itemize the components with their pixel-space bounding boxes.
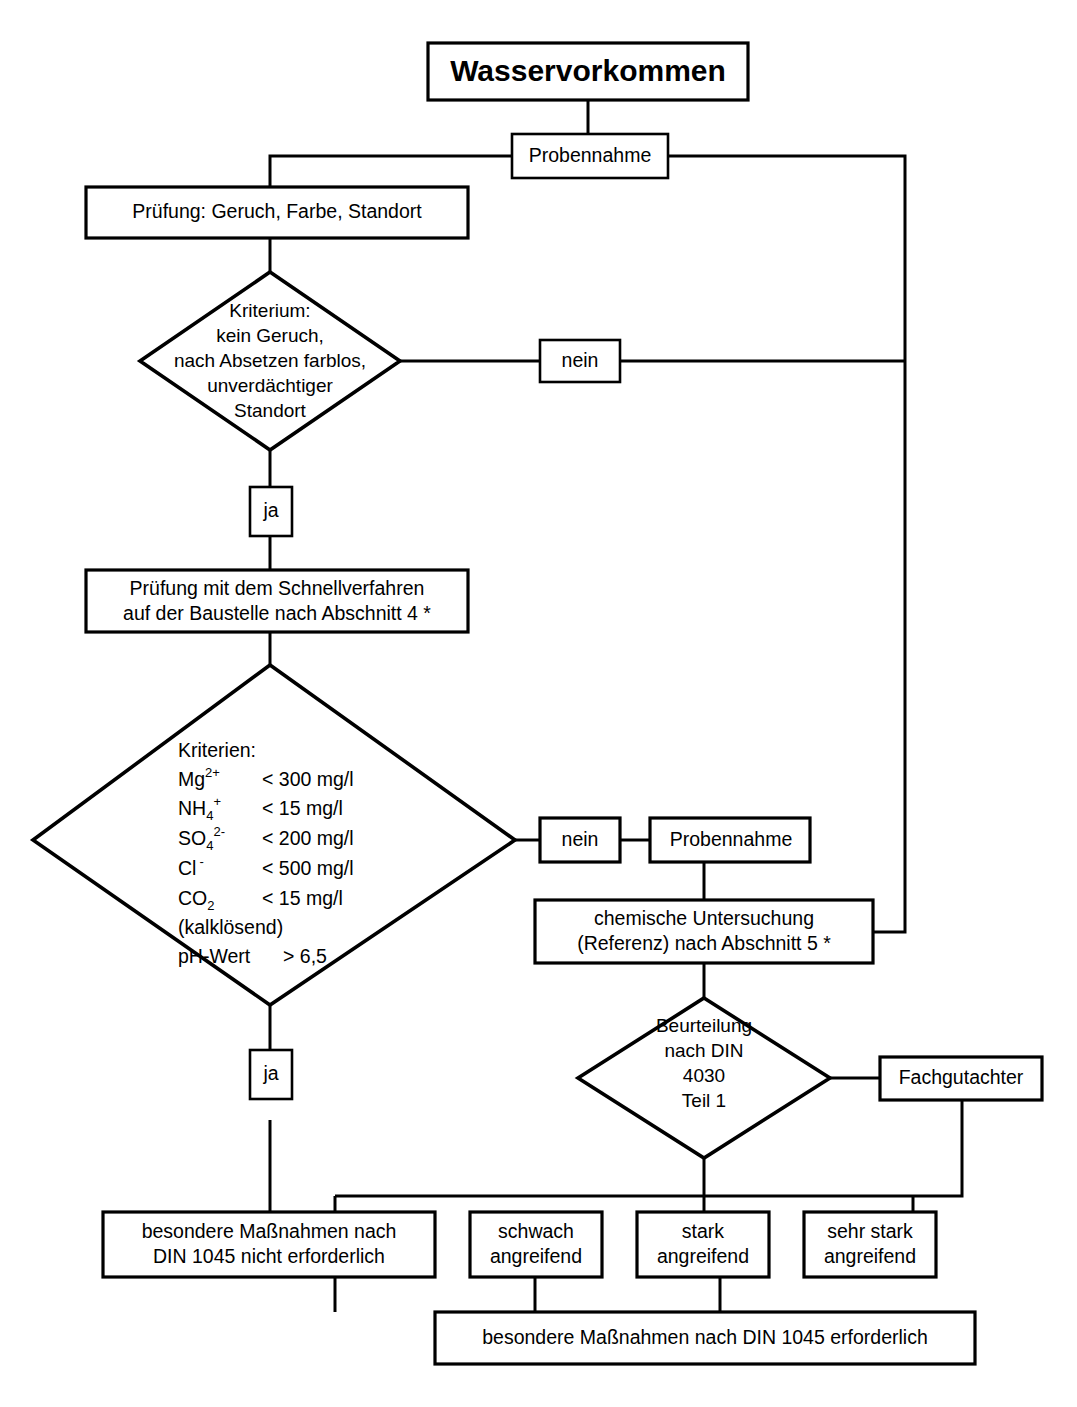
connector-layer	[270, 100, 962, 1312]
kriterien-row-4-limit: < 15 mg/l	[262, 887, 343, 909]
flowchart-canvas: Wasservorkommen Probennahme Prüfung: Ger…	[0, 0, 1077, 1407]
kriterien-row-0-limit: < 300 mg/l	[262, 768, 354, 790]
node-nein-1[interactable]: nein	[540, 340, 620, 382]
kriterien-row-4-species: CO	[178, 887, 207, 909]
node-probennahme-2[interactable]: Probennahme	[650, 818, 810, 862]
node-chemische-untersuchung[interactable]: chemische Untersuchung (Referenz) nach A…	[535, 900, 873, 963]
kriterium-line-0: Kriterium:	[229, 300, 310, 321]
kriterien-row-3-species: Cl	[178, 857, 196, 879]
kriterien-row-1-species: NH	[178, 797, 206, 819]
kriterium-line-3: unverdächtiger	[207, 375, 333, 396]
connector-fachgutachter-to-bar	[913, 1100, 962, 1196]
kriterien-row-2-species: SO	[178, 827, 206, 849]
chemische-untersuchung-line-1: (Referenz) nach Abschnitt 5 *	[577, 932, 831, 954]
title-box-label: Wasservorkommen	[450, 54, 726, 87]
kriterien-row-0-sup: 2+	[205, 765, 220, 780]
kriterien-row-0-species: Mg	[178, 768, 205, 790]
kriterien-row-4-sub: 2	[207, 898, 214, 913]
node-ja-1[interactable]: ja	[250, 487, 292, 536]
kriterien-heading: Kriterien:	[178, 739, 256, 761]
node-result-stark[interactable]: stark angreifend	[637, 1212, 769, 1277]
kriterien-row-2-limit: < 200 mg/l	[262, 827, 354, 849]
node-schnellverfahren[interactable]: Prüfung mit dem Schnellverfahren auf der…	[86, 570, 468, 632]
kriterien-row-1-limit: < 15 mg/l	[262, 797, 343, 819]
flowchart-svg: Wasservorkommen Probennahme Prüfung: Ger…	[0, 0, 1077, 1407]
kriterien-note: (kalklösend)	[178, 916, 283, 938]
probennahme-1-label: Probennahme	[529, 144, 652, 166]
result-measures-required-label: besondere Maßnahmen nach DIN 1045 erford…	[482, 1326, 928, 1348]
node-beurteilung-diamond[interactable]: Beurteilung nach DIN 4030 Teil 1	[578, 998, 830, 1158]
node-ja-2[interactable]: ja	[250, 1050, 292, 1099]
schnellverfahren-line-1: auf der Baustelle nach Abschnitt 4 *	[123, 602, 431, 624]
node-pruefung-visual[interactable]: Prüfung: Geruch, Farbe, Standort	[86, 187, 468, 238]
node-kriterium-diamond[interactable]: Kriterium: kein Geruch, nach Absetzen fa…	[140, 272, 400, 450]
kriterium-line-4: Standort	[234, 400, 307, 421]
fachgutachter-label: Fachgutachter	[899, 1066, 1024, 1088]
connector-probennahme-to-pruefung	[270, 156, 512, 187]
result-stark-line-0: stark	[682, 1220, 725, 1242]
kriterien-row-2-sub: 4	[206, 838, 213, 853]
kriterien-row-1-sub: 4	[206, 808, 213, 823]
connector-probennahme-to-chemical-right	[668, 156, 905, 932]
kriterien-ph-limit: > 6,5	[283, 945, 327, 967]
nein-1-label: nein	[562, 349, 599, 371]
ja-2-label: ja	[262, 1062, 278, 1084]
probennahme-2-label: Probennahme	[670, 828, 793, 850]
node-result-measures-required[interactable]: besondere Maßnahmen nach DIN 1045 erford…	[435, 1312, 975, 1364]
result-no-measures-line-0: besondere Maßnahmen nach	[142, 1220, 397, 1242]
beurteilung-line-1: nach DIN	[664, 1040, 743, 1061]
kriterien-ph-label: pH-Wert	[178, 945, 251, 967]
kriterien-row-3-sup: -	[199, 854, 203, 869]
ja-1-label: ja	[262, 499, 278, 521]
beurteilung-line-2: 4030	[683, 1065, 725, 1086]
result-sehr-stark-line-0: sehr stark	[827, 1220, 913, 1242]
result-sehr-stark-line-1: angreifend	[824, 1245, 916, 1267]
node-result-sehr-stark[interactable]: sehr stark angreifend	[804, 1212, 936, 1277]
result-no-measures-line-1: DIN 1045 nicht erforderlich	[153, 1245, 385, 1267]
kriterien-row-1-sup: +	[213, 794, 221, 809]
pruefung-visual-label: Prüfung: Geruch, Farbe, Standort	[132, 200, 422, 222]
kriterien-row-2-sup: 2-	[213, 824, 225, 839]
node-title-box[interactable]: Wasservorkommen	[428, 43, 748, 100]
nein-2-label: nein	[562, 828, 599, 850]
beurteilung-line-0: Beurteilung	[656, 1015, 752, 1036]
result-stark-line-1: angreifend	[657, 1245, 749, 1267]
node-result-schwach[interactable]: schwach angreifend	[470, 1212, 602, 1277]
result-schwach-line-1: angreifend	[490, 1245, 582, 1267]
node-result-no-measures[interactable]: besondere Maßnahmen nach DIN 1045 nicht …	[103, 1212, 435, 1277]
kriterien-row-3-limit: < 500 mg/l	[262, 857, 354, 879]
node-fachgutachter[interactable]: Fachgutachter	[880, 1057, 1042, 1100]
kriterium-line-1: kein Geruch,	[216, 325, 324, 346]
kriterien-row-2: SO42- < 200 mg/l	[178, 824, 354, 853]
beurteilung-line-3: Teil 1	[682, 1090, 726, 1111]
kriterium-line-2: nach Absetzen farblos,	[174, 350, 366, 371]
schnellverfahren-line-0: Prüfung mit dem Schnellverfahren	[130, 577, 425, 599]
node-nein-2[interactable]: nein	[540, 818, 620, 862]
node-kriterien-diamond[interactable]: Kriterien: Mg2+ < 300 mg/l NH4+ < 15 mg/…	[33, 665, 515, 1005]
chemische-untersuchung-line-0: chemische Untersuchung	[594, 907, 814, 929]
result-schwach-line-0: schwach	[498, 1220, 574, 1242]
node-probennahme-1[interactable]: Probennahme	[512, 134, 668, 178]
kriterien-row-0: Mg2+ < 300 mg/l	[178, 765, 354, 790]
